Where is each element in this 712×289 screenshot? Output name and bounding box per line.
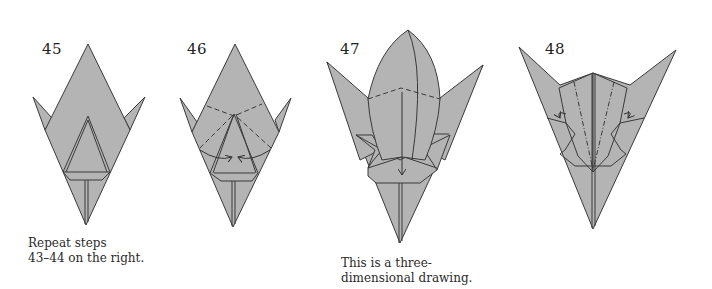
step-number-47: 47 (340, 40, 360, 58)
step-48-figure (519, 47, 676, 229)
right-wing (275, 98, 291, 132)
step-46-figure (180, 44, 291, 227)
step-47-figure (327, 30, 483, 243)
step-45-figure (33, 44, 145, 225)
step-number-45: 45 (42, 40, 62, 58)
step-number-48: 48 (545, 40, 565, 58)
step-45-caption: Repeat steps 43–44 on the right. (28, 236, 144, 266)
step-number-46: 46 (187, 40, 207, 58)
step-47-caption: This is a three- dimensional drawing. (341, 256, 472, 286)
